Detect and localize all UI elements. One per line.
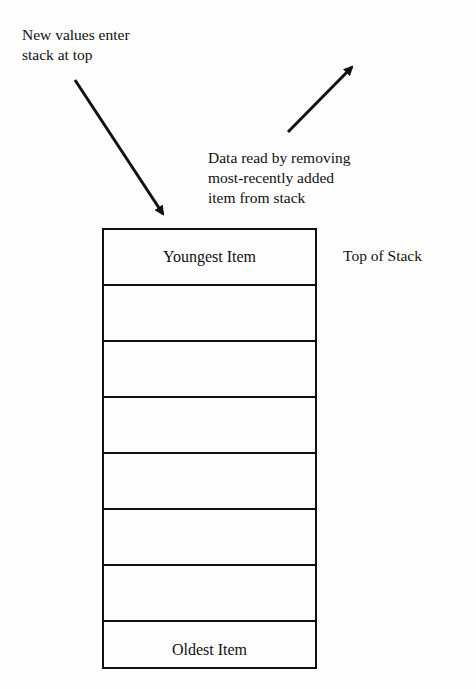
stack-cell-youngest: Youngest Item	[104, 230, 315, 286]
pop-arrow-icon	[288, 67, 352, 132]
stack-cell	[104, 342, 315, 398]
stack-cell	[104, 510, 315, 566]
stack-cell-oldest: Oldest Item	[104, 622, 315, 678]
stack-cell	[104, 286, 315, 342]
stack-cell	[104, 454, 315, 510]
stack-cell	[104, 566, 315, 622]
stack-box: Youngest Item Oldest Item	[102, 228, 317, 669]
push-arrow-icon	[75, 80, 163, 214]
stack-cell	[104, 398, 315, 454]
